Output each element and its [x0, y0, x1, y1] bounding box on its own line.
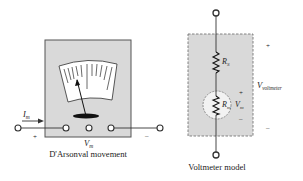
voltmeter-minus-sign: –: [265, 124, 270, 132]
external-terminal-positive: [15, 125, 21, 131]
voltmeter-model-caption: Voltmeter model: [188, 162, 246, 172]
darsonval-caption: D'Arsonval movement: [49, 149, 127, 159]
voltmeter-terminal-top: [213, 10, 219, 16]
darsonval-movement-figure: Im + – Vm D'Arsonval movement: [15, 40, 163, 159]
voltmeter-enclosure: [188, 34, 253, 136]
meter-terminal-right: [108, 125, 114, 131]
negative-sign: –: [144, 132, 149, 140]
movement-voltage-label: Vm: [84, 138, 93, 149]
current-arrow-icon: [38, 119, 44, 124]
voltmeter-diagram: Im + – Vm D'Arsonval movement RS Rm Vm +…: [0, 0, 303, 181]
voltmeter-plus-sign: +: [266, 42, 270, 50]
voltmeter-terminal-bottom: [213, 152, 219, 158]
vm-plus-sign: +: [239, 89, 243, 97]
external-terminal-negative: [157, 125, 163, 131]
meter-pivot: [73, 113, 99, 118]
meter-terminal-center: [86, 125, 92, 131]
vm-minus-sign: –: [238, 115, 243, 123]
positive-sign: +: [33, 133, 37, 141]
voltmeter-model-figure: RS Rm Vm + – + Vvoltmeter – Voltmeter mo…: [188, 10, 283, 172]
v-voltmeter-label: Vvoltmeter: [257, 80, 283, 91]
current-label: Im: [22, 109, 30, 120]
meter-terminal-left: [63, 125, 69, 131]
